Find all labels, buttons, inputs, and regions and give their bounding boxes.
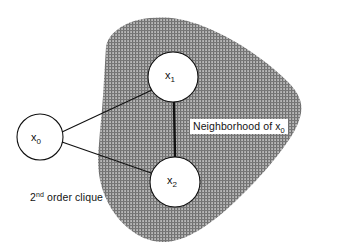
diagram-canvas: x0 x1 x2 2nd order clique Neighborhood o… [0,0,341,250]
edge-x1-x2 [174,102,175,157]
node-x0[interactable]: x0 [17,114,63,160]
neighborhood-caption-text: Neighborhood of x [193,120,281,132]
clique-caption-suffix: order clique [44,191,103,203]
figure-svg: x0 x1 x2 [0,0,341,250]
neighborhood-caption: Neighborhood of x0 [190,119,288,134]
clique-caption-ordinal: nd [36,191,44,198]
neighborhood-caption-subscript: 0 [281,126,285,135]
clique-caption: 2nd order clique [30,191,103,203]
node-x1[interactable]: x1 [148,52,198,102]
node-x2[interactable]: x2 [150,157,200,207]
